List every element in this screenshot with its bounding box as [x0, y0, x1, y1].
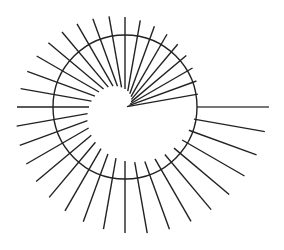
diagram-canvas [0, 0, 284, 250]
spiral-ray-diagram [0, 0, 284, 250]
